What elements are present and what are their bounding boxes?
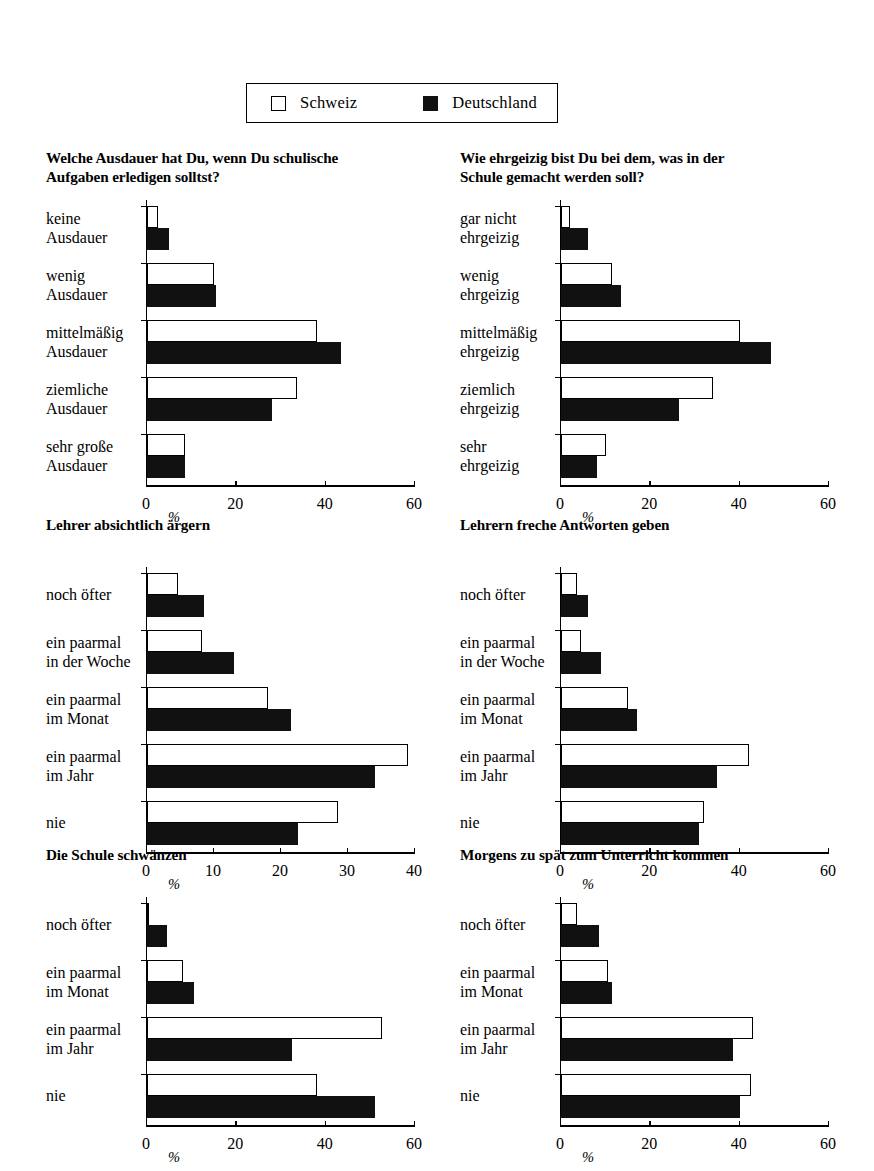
bar-deutschland [147,1096,375,1118]
bar-deutschland [147,766,375,788]
bar-deutschland [561,1039,733,1061]
legend-label-deutschland: Deutschland [452,93,537,113]
legend: Schweiz Deutschland [246,83,558,123]
bar-schweiz [147,960,183,982]
chart-panel-schule-schwaenzen: Die Schule schwänzen0204060%noch öfterei… [46,845,438,1169]
bars-container-freche-antworten [560,567,829,852]
bar-deutschland [561,228,588,250]
value-tick-label: 20 [227,495,243,513]
category-label-line: mittelmäßig [460,324,537,343]
value-tick-label: 0 [142,1135,150,1153]
category-label-line: ehrgeizig [460,342,537,361]
category-label-line: ehrgeizig [460,285,519,304]
bar-deutschland [147,652,234,674]
bar-deutschland [561,342,771,364]
category-label-line: Ausdauer [46,342,123,361]
chart-title-line: Schule gemacht werden soll? [460,167,860,186]
chart-panel-ausdauer: Welche Ausdauer hat Du, wenn Du schulisc… [46,148,438,529]
chart-title-freche-antworten: Lehrern freche Antworten geben [460,515,860,553]
bar-deutschland [561,399,679,421]
category-label: mittelmäßigAusdauer [46,324,123,361]
category-label-line: sehr [460,438,519,457]
category-label-line: nie [46,814,66,833]
category-label-line: ein paarmal [46,691,121,710]
bar-deutschland [147,285,216,307]
category-label: ein paarmalim Jahr [46,748,121,785]
chart-panel-lehrer-aergern: Lehrer absichtlich ärgern010203040%noch … [46,515,438,896]
category-label-line: ehrgeizig [460,456,519,475]
category-label: ein paarmalim Monat [460,691,535,728]
value-tick-label: 40 [317,1135,333,1153]
bar-schweiz [147,1074,317,1096]
legend-entry-schweiz: Schweiz [271,93,357,113]
value-tick-label: 0 [556,495,564,513]
category-label-line: im Jahr [460,766,535,785]
category-label-line: ein paarmal [46,748,121,767]
bar-deutschland [147,399,272,421]
plot-area-ausdauer: 0204060%keineAusdauerwenigAusdauermittel… [46,200,438,529]
percent-unit-label: % [168,1149,180,1166]
value-tick-label: 60 [406,495,422,513]
bar-deutschland [561,595,588,617]
bar-schweiz [561,377,713,399]
category-label-line: gar nicht [460,210,519,229]
category-label: ein paarmalim Monat [46,964,121,1001]
category-label: ein paarmalin der Woche [460,634,545,671]
category-label: mittelmäßigehrgeizig [460,324,537,361]
bar-schweiz [561,687,628,709]
category-label-line: noch öfter [46,916,111,935]
category-label-line: noch öfter [460,916,525,935]
category-label-line: ehrgeizig [460,399,519,418]
category-label-line: sehr große [46,438,113,457]
legend-entry-deutschland: Deutschland [423,93,537,113]
chart-panel-ehrgeizig: Wie ehrgeizig bist Du bei dem, was in de… [460,148,860,529]
category-label: nie [460,814,480,833]
value-tick-label: 60 [820,1135,836,1153]
category-label-line: im Monat [460,982,535,1001]
category-label: nie [46,814,66,833]
bar-schweiz [561,1017,753,1039]
value-tick-label: 20 [227,1135,243,1153]
bar-schweiz [561,206,570,228]
category-label-line: Ausdauer [46,399,108,418]
bar-schweiz [561,320,740,342]
bar-deutschland [147,456,185,478]
percent-unit-label: % [582,1149,594,1166]
category-label: ein paarmalim Monat [46,691,121,728]
category-label-line: mittelmäßig [46,324,123,343]
category-label: noch öfter [460,916,525,935]
chart-panel-freche-antworten: Lehrern freche Antworten geben0204060%no… [460,515,860,896]
category-label: gar nichtehrgeizig [460,210,519,247]
chart-title-lehrer-aergern: Lehrer absichtlich ärgern [46,515,438,553]
bar-schweiz [147,903,149,925]
category-label-line: ein paarmal [460,748,535,767]
category-label: nie [46,1087,66,1106]
category-label-line: im Jahr [46,1039,121,1058]
bar-schweiz [561,434,606,456]
bar-deutschland [147,709,291,731]
category-label-line: im Monat [460,709,535,728]
bar-deutschland [147,228,169,250]
category-label: ziemlichehrgeizig [460,381,519,418]
bar-schweiz [147,801,338,823]
category-label: keineAusdauer [46,210,107,247]
chart-title-line: Welche Ausdauer hat Du, wenn Du schulisc… [46,148,438,167]
chart-title-line: Aufgaben erledigen solltst? [46,167,438,186]
bar-deutschland [561,652,601,674]
bar-deutschland [561,1096,740,1118]
value-tick-label: 20 [641,1135,657,1153]
category-label-line: nie [46,1087,66,1106]
bar-deutschland [147,1039,292,1061]
category-label-line: im Jahr [46,766,121,785]
category-label-line: noch öfter [460,586,525,605]
category-label-line: im Jahr [460,1039,535,1058]
bar-deutschland [561,982,612,1004]
value-axis-schule-schwaenzen [146,1125,414,1127]
bar-schweiz [561,630,581,652]
bar-schweiz [561,263,612,285]
category-label: ein paarmalin der Woche [46,634,131,671]
bars-container-lehrer-aergern [146,567,415,852]
chart-title-schule-schwaenzen: Die Schule schwänzen [46,845,438,883]
category-label-line: nie [460,1087,480,1106]
bar-deutschland [147,823,298,845]
